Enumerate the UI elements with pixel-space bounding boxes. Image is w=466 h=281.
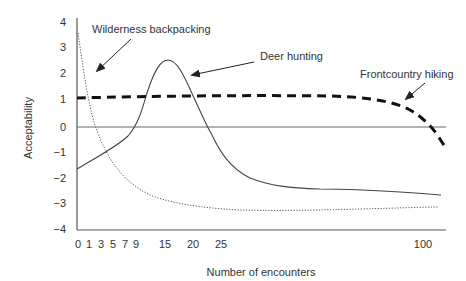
acceptability-chart: 4 3 2 1 0 −1 −2 −3 −4 0 1 3 5 7 9 15 20 … [0,0,466,281]
y-tick-m1: −1 [53,146,66,158]
y-axis-title: Acceptability [22,97,34,159]
y-tick-4: 4 [60,16,66,28]
x-tick-9: 9 [133,238,139,250]
arrow-deer-hunting [192,62,254,75]
arrow-wilderness-backpacking [97,39,131,71]
x-tick-3: 3 [98,238,104,250]
series-wilderness-backpacking [78,33,438,210]
y-tick-m4: −4 [53,223,66,235]
y-tick-0: 0 [60,121,66,133]
x-tick-1: 1 [86,238,92,250]
x-tick-15: 15 [159,238,171,250]
annotation-deer-hunting: Deer hunting [260,50,323,62]
y-tick-2: 2 [60,67,66,79]
series-frontcountry-hiking [77,96,446,148]
x-tick-5: 5 [110,238,116,250]
y-tick-3: 3 [60,41,66,53]
x-tick-7: 7 [122,238,128,250]
annotation-wilderness-backpacking: Wilderness backpacking [92,23,211,35]
y-tick-m2: −2 [53,172,66,184]
annotation-frontcountry-hiking: Frontcountry hiking [360,68,454,80]
x-tick-20: 20 [187,238,199,250]
y-tick-m3: −3 [53,197,66,209]
x-tick-25: 25 [215,238,227,250]
arrow-frontcountry-hiking [406,83,425,99]
x-tick-0: 0 [75,238,81,250]
y-tick-1: 1 [60,93,66,105]
x-axis-title: Number of encounters [207,266,316,278]
x-tick-100: 100 [414,238,432,250]
